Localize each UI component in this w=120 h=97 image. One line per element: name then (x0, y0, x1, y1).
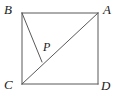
vertex-label-B: B (4, 3, 12, 16)
segment-BP (22, 13, 42, 62)
vertex-label-D: D (101, 79, 110, 92)
vertex-label-C: C (4, 78, 13, 91)
segment-diagonal-CA (22, 13, 98, 84)
vertex-label-A: A (103, 3, 111, 16)
point-label-P: P (43, 41, 50, 53)
inner-segments (22, 13, 98, 84)
geometry-figure: B A C D P (0, 0, 120, 97)
